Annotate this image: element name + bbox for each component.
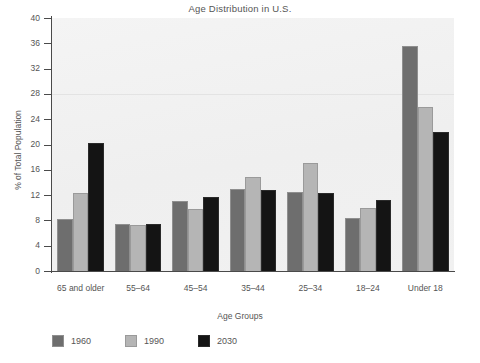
bar-1990-1: [73, 193, 89, 271]
x-axis-label: Age Groups: [0, 311, 480, 321]
y-tick-mark: [44, 271, 52, 272]
bar-1990-6: [360, 208, 376, 271]
legend-label: 2030: [217, 337, 237, 346]
legend-item-1990[interactable]: 1990: [125, 335, 164, 347]
chart-title: Age Distribution in U.S.: [0, 3, 480, 14]
bar-1960-2: [115, 224, 131, 271]
legend-item-1960[interactable]: 1960: [52, 335, 91, 347]
bar-1960-7: [402, 46, 418, 271]
y-tick-mark: [44, 119, 52, 120]
bar-1990-7: [418, 107, 434, 271]
y-tick-mark: [44, 18, 52, 19]
y-tick-mark: [44, 43, 52, 44]
x-axis-line: [51, 271, 455, 272]
bar-2030-2: [146, 224, 162, 271]
y-tick-label: 32: [0, 64, 40, 73]
bar-2030-1: [88, 143, 104, 271]
bar-2030-3: [203, 197, 219, 271]
chart-legend: 196019902030: [52, 333, 271, 349]
legend-swatch-icon: [125, 335, 137, 347]
y-tick-mark: [44, 195, 52, 196]
y-tick-mark: [44, 69, 52, 70]
y-tick-label: 4: [0, 241, 40, 250]
bar-1960-3: [172, 201, 188, 271]
bar-1960-6: [345, 218, 361, 271]
bar-1960-1: [57, 219, 73, 271]
legend-label: 1990: [144, 337, 164, 346]
y-tick-label: 12: [0, 191, 40, 200]
legend-swatch-icon: [198, 335, 210, 347]
y-tick-label: 36: [0, 39, 40, 48]
bar-1960-5: [287, 192, 303, 271]
y-tick-mark: [44, 94, 52, 95]
y-tick-label: 16: [0, 165, 40, 174]
y-tick-mark: [44, 246, 52, 247]
y-tick-mark: [44, 220, 52, 221]
y-tick-label: 28: [0, 89, 40, 98]
y-tick-label: 0: [0, 267, 40, 276]
bar-1990-5: [303, 163, 319, 271]
legend-swatch-icon: [52, 335, 64, 347]
x-tick-label: Under 18: [375, 283, 475, 293]
faint-gridline: [52, 94, 454, 95]
legend-item-2030[interactable]: 2030: [198, 335, 237, 347]
y-tick-label: 24: [0, 115, 40, 124]
plot-area: [52, 18, 454, 271]
bar-2030-4: [261, 190, 277, 271]
bar-1990-2: [130, 225, 146, 271]
bar-2030-5: [318, 193, 334, 271]
y-tick-mark: [44, 145, 52, 146]
bar-1990-4: [245, 177, 261, 271]
y-tick-label: 20: [0, 140, 40, 149]
y-tick-label: 8: [0, 216, 40, 225]
legend-label: 1960: [71, 337, 91, 346]
bar-2030-7: [433, 132, 449, 271]
bar-1990-3: [188, 209, 204, 271]
bar-chart: Age Distribution in U.S. % of Total Popu…: [0, 0, 480, 363]
bar-2030-6: [376, 200, 392, 271]
bar-1960-4: [230, 189, 246, 271]
y-tick-label: 40: [0, 14, 40, 23]
y-tick-mark: [44, 170, 52, 171]
